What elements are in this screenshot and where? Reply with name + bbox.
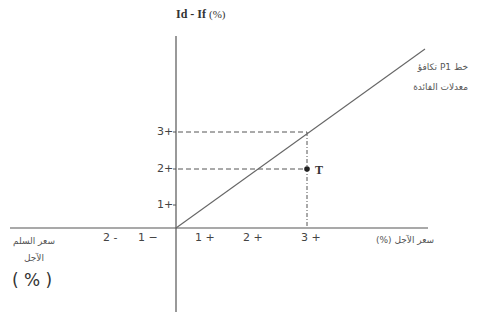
x-axis-label-left-unit: ( % ): [12, 270, 52, 290]
x-axis-label-left-line2: الآجل: [12, 253, 56, 263]
point-t-marker: [304, 166, 310, 172]
y-axis-label-unit: (%): [209, 8, 226, 20]
chart-container: Id - If (%) 1+ 2+ 3+ 2 - 1 − 1 + 2 + 3 +…: [0, 0, 477, 318]
y-tick-label-2: 2+: [157, 162, 173, 175]
y-tick-label-1: 1+: [157, 198, 173, 211]
chart-svg: [0, 0, 477, 318]
x-tick-label-pos2: 2 +: [243, 231, 263, 244]
y-axis-label-main: Id - If: [176, 7, 206, 21]
y-tick-label-3: 3+: [157, 125, 173, 138]
x-axis-label-right: سعر الآجل (%): [376, 235, 434, 245]
parity-line-p1: [176, 49, 425, 228]
x-tick-label-pos1: 1 +: [195, 231, 215, 244]
x-tick-label-pos3: 3 +: [301, 231, 321, 244]
y-axis-label: Id - If (%): [176, 7, 226, 22]
parity-line-label-line2: معدلات الفائدة: [398, 82, 468, 92]
point-t-label: T: [315, 163, 323, 178]
x-axis-label-left-line1: سعر السلم: [12, 236, 56, 246]
x-tick-label-neg1: 1 −: [138, 231, 158, 244]
x-tick-label-neg2: 2 -: [103, 231, 117, 244]
parity-line-label-line1: خط P1 تكافؤ: [398, 62, 468, 72]
